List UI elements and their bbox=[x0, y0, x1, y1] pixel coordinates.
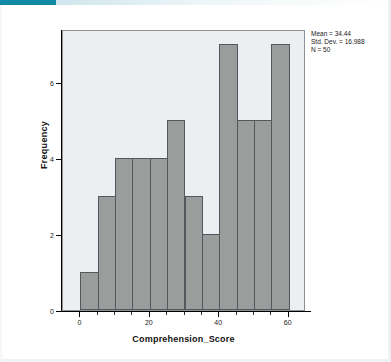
histogram-bar bbox=[202, 234, 220, 310]
y-axis-tick bbox=[56, 159, 61, 160]
histogram-bar bbox=[132, 158, 150, 310]
x-axis-minor-tick bbox=[201, 312, 202, 315]
x-axis-tick-label: 60 bbox=[276, 319, 300, 326]
stat-stddev: Std. Dev. = 16.988 bbox=[311, 38, 387, 46]
x-axis-minor-tick bbox=[166, 312, 167, 315]
stat-mean: Mean = 34.44 bbox=[311, 30, 387, 38]
histogram-bar bbox=[167, 120, 185, 310]
x-axis-minor-tick bbox=[114, 312, 115, 315]
x-axis-minor-tick bbox=[184, 312, 185, 315]
statistics-annotation: Mean = 34.44 Std. Dev. = 16.988 N = 50 bbox=[311, 30, 387, 54]
y-axis-tick bbox=[56, 235, 61, 236]
histogram-bar bbox=[237, 120, 255, 310]
y-axis-title: Frequency bbox=[39, 85, 49, 205]
x-axis-minor-tick bbox=[131, 312, 132, 315]
plot-area bbox=[62, 30, 305, 311]
x-axis-minor-tick bbox=[236, 312, 237, 315]
y-axis-tick-label: 2 bbox=[36, 232, 54, 239]
histogram-chart: 0246 Frequency 0204060 Comprehension_Sco… bbox=[0, 0, 391, 362]
histogram-bar bbox=[271, 44, 289, 310]
histogram-bar bbox=[254, 120, 272, 310]
x-axis-tick-label: 0 bbox=[67, 319, 91, 326]
histogram-bar bbox=[115, 158, 133, 310]
histogram-bar bbox=[80, 272, 98, 310]
y-axis-line bbox=[61, 30, 62, 312]
x-axis-title: Comprehension_Score bbox=[62, 334, 305, 344]
x-axis-tick-label: 40 bbox=[206, 319, 230, 326]
x-axis-minor-tick bbox=[253, 312, 254, 315]
page-edge-left bbox=[0, 5, 2, 362]
histogram-bar bbox=[219, 44, 237, 310]
x-axis-minor-tick bbox=[270, 312, 271, 315]
y-axis-tick bbox=[56, 83, 61, 84]
x-axis-tick-label: 20 bbox=[137, 319, 161, 326]
x-axis-tick bbox=[79, 312, 80, 317]
histogram-bar bbox=[98, 196, 116, 310]
x-axis-tick bbox=[149, 312, 150, 317]
histogram-bar bbox=[185, 196, 203, 310]
x-axis-tick bbox=[218, 312, 219, 317]
stat-n: N = 50 bbox=[311, 46, 387, 54]
x-axis-tick bbox=[288, 312, 289, 317]
y-axis-tick-label: 0 bbox=[36, 308, 54, 315]
histogram-bar bbox=[150, 158, 168, 310]
x-axis-minor-tick bbox=[97, 312, 98, 315]
histogram-bars bbox=[63, 31, 304, 310]
